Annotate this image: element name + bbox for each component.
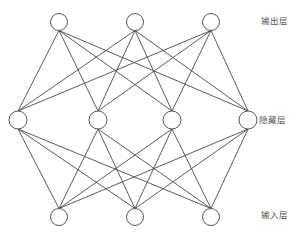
network-graph xyxy=(0,0,298,234)
connection-edge xyxy=(59,129,98,209)
connection-edge xyxy=(18,129,59,209)
hidden-node-h1 xyxy=(9,111,27,129)
connection-edge xyxy=(135,31,172,112)
connection-edge xyxy=(98,31,135,112)
input-node-i2 xyxy=(127,209,144,226)
connection-edge xyxy=(59,129,248,209)
hidden-layer-label: 隐藏层 xyxy=(259,115,287,125)
hidden-node-h3 xyxy=(163,111,181,129)
output-node-o1 xyxy=(51,14,68,31)
input-node-i3 xyxy=(203,209,220,226)
connection-edge xyxy=(135,129,248,209)
connection-edge xyxy=(59,31,98,112)
connection-lines xyxy=(18,31,248,209)
connection-edge xyxy=(172,31,211,112)
hidden-node-h4 xyxy=(239,111,257,129)
output-node-o2 xyxy=(127,14,144,31)
connection-edge xyxy=(211,31,248,112)
connection-edge xyxy=(98,129,135,209)
neural-network-diagram: 输出层 隐藏层 输入层 xyxy=(0,0,298,234)
neuron-nodes xyxy=(9,14,257,226)
input-layer-label: 输入层 xyxy=(261,210,289,220)
output-node-o3 xyxy=(203,14,220,31)
input-node-i1 xyxy=(51,209,68,226)
hidden-node-h2 xyxy=(89,111,107,129)
output-layer-label: 输出层 xyxy=(261,16,289,26)
connection-edge xyxy=(18,31,59,112)
connection-edge xyxy=(211,129,248,209)
